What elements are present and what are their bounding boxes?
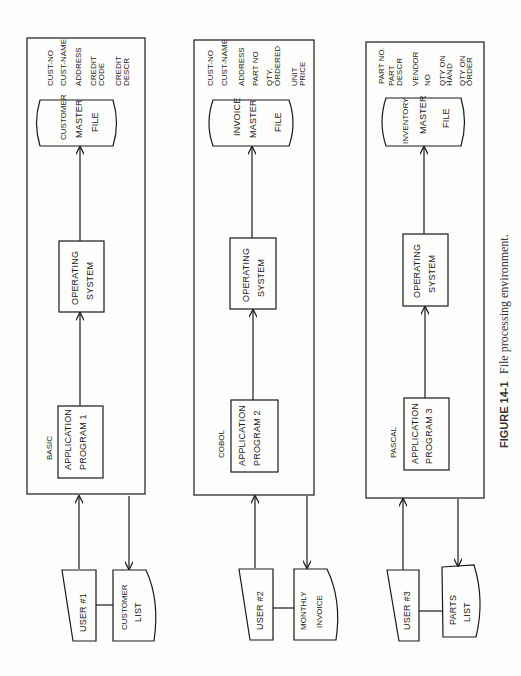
svg-text:ADDRESS: ADDRESS [74,47,83,86]
app-label-2: PROGRAM 3 [424,408,434,464]
field-2: PARTDESCR [387,58,404,86]
svg-text:CUST-NAME: CUST-NAME [59,39,68,86]
svg-text:USER #2: USER #2 [255,591,265,630]
report-label: CUSTOMER [120,584,129,630]
svg-text:APPLICATION: APPLICATION [410,403,420,464]
field-5: QTY ONORDER [458,55,474,86]
field-3: ADDRESS [74,47,83,86]
svg-text:HAND: HAND [445,63,454,86]
svg-text:INVOICE: INVOICE [232,98,242,136]
language-label: PASCAL [389,426,398,458]
master-file-label-2: MASTER [418,95,428,134]
user-label: USER #3 [402,591,412,630]
svg-text:OPERATING: OPERATING [412,244,422,298]
os-label: OPERATING [70,251,80,305]
svg-text:INVENTORY: INVENTORY [401,97,410,144]
report-label: PARTS [448,595,458,625]
field-4: QTY ONHAND [438,55,454,86]
user-label: USER #1 [78,593,88,632]
field-2: CUST-NAME [59,39,68,86]
language-label: BASIC [45,436,54,460]
svg-text:PROGRAM 3: PROGRAM 3 [424,408,434,464]
field-4: CREDITCODE [89,56,106,86]
svg-text:USER #1: USER #1 [78,593,88,632]
app-label: APPLICATION [63,409,73,470]
language-label: COBOL [217,429,226,458]
svg-text:PART NO.: PART NO. [377,47,386,84]
svg-text:PROGRAM 2: PROGRAM 2 [252,410,262,466]
svg-text:OPERATING: OPERATING [241,248,251,302]
svg-text:MASTER: MASTER [248,99,258,138]
svg-text:PROGRAM 1: PROGRAM 1 [78,414,88,470]
master-file-label: INVOICE [232,98,242,136]
report-label-2: INVOICE [315,595,324,628]
svg-text:FIGURE 14-1: FIGURE 14-1 [498,381,510,448]
os-label-2: SYSTEM [427,255,437,293]
svg-text:SYSTEM: SYSTEM [427,255,437,293]
os-label: OPERATING [412,244,422,298]
field-5: QTY.ORDERED [265,46,282,86]
svg-text:MONTHLY: MONTHLY [299,591,308,630]
field-list: CUST-NO [46,50,55,86]
field-6: UNITPRICE [290,62,307,86]
svg-text:LIST: LIST [133,602,143,622]
svg-text:PART NO: PART NO [251,51,260,86]
svg-text:DESCR: DESCR [122,58,131,86]
panel-3: INVENTORY MASTER FILE PART NO. PARTDESCR… [366,42,484,641]
svg-text:FILE: FILE [441,108,451,128]
svg-text:PASCAL: PASCAL [389,426,398,458]
field-5: CREDITDESCR [114,56,131,86]
field-1: CUST-NO [206,50,215,86]
panel-2: INVOICE MASTER FILE CUST-NO CUST-NAME AD… [194,39,338,640]
master-file-label-2: MASTER [74,99,84,138]
svg-text:CUST-NAME: CUST-NAME [220,39,229,86]
report-label-2: LIST [133,602,143,622]
master-file-label-3: FILE [273,112,283,132]
svg-text:ADDRESS: ADDRESS [237,47,246,86]
operating-system-box [59,241,104,312]
svg-text:SYSTEM: SYSTEM [85,262,95,300]
app-label: APPLICATION [410,403,420,464]
panel-1: CUSTOMER MASTER FILE CUST-NO CUST-NAME A… [27,38,156,641]
svg-text:BASIC: BASIC [45,436,54,460]
svg-text:PARTS: PARTS [448,595,458,625]
svg-text:VENDOR: VENDOR [411,52,420,86]
svg-text:CUST-NO: CUST-NO [46,50,55,86]
report-label-2: LIST [462,602,472,622]
operating-system-box [403,234,448,306]
app-label: APPLICATION [237,405,247,466]
os-label-2: SYSTEM [85,262,95,300]
svg-text:CUST-NO: CUST-NO [206,50,215,86]
svg-text:COBOL: COBOL [217,429,226,458]
svg-text:ORDERED: ORDERED [273,46,282,86]
field-4: PART NO [251,51,260,86]
operating-system-box [230,238,276,309]
svg-text:APPLICATION: APPLICATION [63,409,73,470]
svg-text:OPERATING: OPERATING [70,251,80,305]
file-processing-diagram: CUSTOMER MASTER FILE CUST-NO CUST-NAME A… [0,0,521,676]
master-file-label: INVENTORY [401,97,410,144]
report-label: MONTHLY [299,591,308,630]
svg-text:PRICE: PRICE [298,62,307,86]
svg-text:File processing environment.: File processing environment. [497,234,511,374]
figure-caption: FIGURE 14-1 File processing environment. [497,234,511,448]
svg-text:SYSTEM: SYSTEM [256,259,266,297]
svg-text:ORDER: ORDER [465,57,474,86]
app-label-2: PROGRAM 1 [78,414,88,470]
svg-text:MASTER: MASTER [74,99,84,138]
svg-text:CUSTOMER: CUSTOMER [59,94,68,140]
svg-text:DESCR: DESCR [395,58,404,86]
svg-text:LIST: LIST [462,602,472,622]
svg-text:FILE: FILE [273,112,283,132]
app-label-2: PROGRAM 2 [252,410,262,466]
field-1: PART NO. [377,47,386,84]
svg-text:FILE: FILE [90,112,100,132]
master-file-label: CUSTOMER [59,94,68,140]
master-file-label-3: FILE [90,112,100,132]
svg-text:INVOICE: INVOICE [315,595,324,628]
os-label-2: SYSTEM [256,259,266,297]
field-2: CUST-NAME [220,39,229,86]
svg-text:NO: NO [423,74,432,86]
svg-text:USER #3: USER #3 [402,591,412,630]
master-file-label-3: FILE [441,108,451,128]
